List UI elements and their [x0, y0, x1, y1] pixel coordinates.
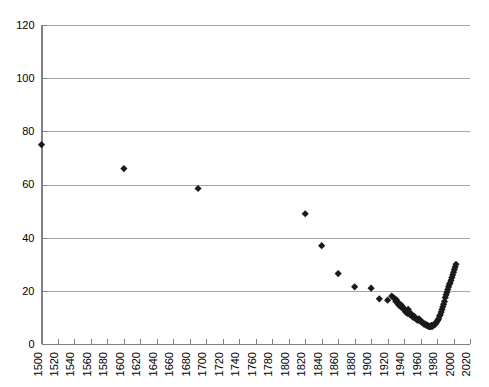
x-tick-label-1820: 1820 — [295, 352, 307, 376]
x-tick-label-1620: 1620 — [130, 352, 142, 376]
x-tick-label-2020: 2020 — [460, 352, 472, 376]
x-tick-label-1720: 1720 — [213, 352, 225, 376]
x-tick-label-2000: 2000 — [444, 352, 456, 376]
x-tick-label-1760: 1760 — [246, 352, 258, 376]
x-tick-label-1840: 1840 — [312, 352, 324, 376]
x-tick-label-1780: 1780 — [262, 352, 274, 376]
x-tick-label-1900: 1900 — [361, 352, 373, 376]
gridlines — [42, 26, 471, 292]
data-point — [302, 210, 309, 217]
x-tick-label-1700: 1700 — [196, 352, 208, 376]
y-tick-label-100: 100 — [16, 72, 34, 84]
x-tick-label-1960: 1960 — [411, 352, 423, 376]
y-tick-label-80: 80 — [22, 125, 34, 137]
x-tick-label-1880: 1880 — [345, 352, 357, 376]
y-tick-label-40: 40 — [22, 232, 34, 244]
scatter-chart: 020406080100120 150015201540156015801600… — [0, 0, 489, 387]
data-point — [38, 141, 45, 148]
y-tick-label-60: 60 — [22, 178, 34, 190]
data-point — [376, 295, 383, 302]
data-point — [335, 270, 342, 277]
axis-lines — [42, 25, 471, 345]
x-axis-tick-labels: 1500152015401560158016001620164016601680… — [32, 352, 473, 376]
data-point-markers — [38, 141, 460, 330]
chart-canvas: 020406080100120 150015201540156015801600… — [0, 0, 489, 387]
data-point — [120, 165, 127, 172]
x-tick-label-1500: 1500 — [32, 352, 44, 376]
y-tick-label-0: 0 — [28, 338, 34, 350]
x-tick-label-1800: 1800 — [279, 352, 291, 376]
x-tick-label-1600: 1600 — [114, 352, 126, 376]
x-tick-label-1540: 1540 — [64, 352, 76, 376]
data-point — [351, 283, 358, 290]
x-tick-label-1560: 1560 — [81, 352, 93, 376]
x-tick-label-1640: 1640 — [147, 352, 159, 376]
y-axis-tick-labels: 020406080100120 — [16, 19, 34, 350]
x-tick-label-1940: 1940 — [394, 352, 406, 376]
y-tick-label-120: 120 — [16, 19, 34, 31]
x-tick-label-1660: 1660 — [163, 352, 175, 376]
x-tick-label-1980: 1980 — [427, 352, 439, 376]
data-point — [368, 285, 375, 292]
x-tick-label-1520: 1520 — [48, 352, 60, 376]
x-tick-label-1860: 1860 — [328, 352, 340, 376]
x-tick-label-1680: 1680 — [180, 352, 192, 376]
data-point — [318, 242, 325, 249]
x-tick-label-1740: 1740 — [229, 352, 241, 376]
y-tick-label-20: 20 — [22, 285, 34, 297]
x-tick-label-1920: 1920 — [378, 352, 390, 376]
x-tick-label-1580: 1580 — [97, 352, 109, 376]
